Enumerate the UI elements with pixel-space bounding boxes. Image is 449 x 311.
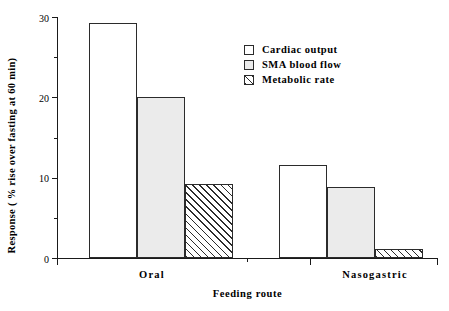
y-tick-30: 30: [52, 17, 57, 18]
y-tick-minor-15: [54, 138, 57, 139]
x-axis-title: Feeding route: [57, 288, 438, 299]
x-tick-right-edge: [437, 258, 438, 265]
y-tick-label-10: 10: [39, 173, 49, 184]
y-tick-minor-5: [54, 218, 57, 219]
legend-item-metabolic-rate: Metabolic rate: [244, 72, 341, 87]
y-tick-label-20: 20: [39, 92, 49, 103]
y-tick-20: 20: [52, 97, 57, 98]
y-axis-line: [57, 17, 58, 258]
legend-label-metabolic-rate: Metabolic rate: [262, 74, 335, 85]
legend-label-cardiac-output: Cardiac output: [262, 44, 338, 55]
bar-oral-sma-blood-flow: [137, 97, 185, 259]
legend-label-sma-blood-flow: SMA blood flow: [262, 59, 341, 70]
y-tick-minor-25: [54, 57, 57, 58]
chart-legend: Cardiac output SMA blood flow Metabolic …: [244, 42, 341, 87]
legend-item-cardiac-output: Cardiac output: [244, 42, 341, 57]
y-tick-10: 10: [52, 178, 57, 179]
hatched-square-icon: [244, 75, 254, 85]
bar-nasogastric-sma-blood-flow: [327, 187, 375, 259]
bar-oral-metabolic-rate: [185, 184, 233, 258]
x-tick-left-edge: [57, 258, 58, 265]
legend-item-sma-blood-flow: SMA blood flow: [244, 57, 341, 72]
bar-oral-cardiac-output: [89, 23, 137, 258]
x-group-label-oral: Oral: [139, 269, 165, 280]
y-axis-title: Response ( % rise over fasting at 60 min…: [0, 0, 22, 311]
bar-nasogastric-metabolic-rate: [375, 249, 423, 258]
x-tick-group-divider: [310, 258, 311, 265]
y-tick-label-0: 0: [44, 253, 49, 264]
x-tick-minor-mid: [247, 258, 248, 262]
bar-chart-figure: Response ( % rise over fasting at 60 min…: [0, 0, 449, 311]
open-square-icon: [244, 45, 254, 55]
y-tick-label-30: 30: [39, 12, 49, 23]
bar-nasogastric-cardiac-output: [279, 165, 327, 258]
x-group-label-nasogastric: Nasogastric: [342, 269, 408, 280]
gray-square-icon: [244, 60, 254, 70]
